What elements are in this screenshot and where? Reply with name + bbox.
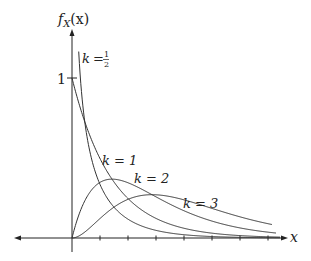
- label-k-3: k = 3: [183, 196, 218, 211]
- x-axis-right-arrow-icon: [281, 236, 288, 241]
- curve-k-2: [72, 179, 276, 238]
- svg-text:k: k: [82, 51, 90, 66]
- y-axis-label: fX(x): [57, 11, 89, 29]
- svg-text:2: 2: [104, 60, 109, 69]
- label-k-half: k = 1 2: [82, 50, 109, 69]
- gamma-pdf-chart: fX(x) 1 x k = 1 2 k = 1 k = 2 k = 3: [0, 0, 311, 261]
- label-k-2: k = 2: [134, 171, 169, 186]
- curve-k-3: [72, 195, 272, 238]
- x-axis-label: x: [290, 229, 298, 245]
- y-tick-label-1: 1: [57, 71, 66, 87]
- x-axis-left-arrow-icon: [14, 236, 21, 241]
- svg-text:=: =: [93, 51, 104, 66]
- svg-text:1: 1: [104, 50, 109, 59]
- curve-k-0-5: [79, 52, 280, 238]
- y-axis-up-arrow-icon: [70, 29, 75, 36]
- curves: [72, 52, 280, 238]
- label-k-1: k = 1: [102, 153, 137, 168]
